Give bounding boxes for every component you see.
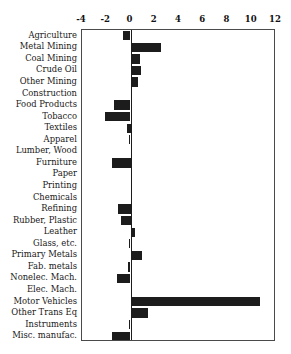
y-axis-label-nonelec-mach: Nonelec. Mach. (10, 273, 77, 282)
bar (112, 332, 131, 341)
bar (112, 158, 130, 167)
y-axis-label-elec-mach: Elec. Mach. (27, 285, 77, 294)
bar (131, 308, 149, 317)
y-axis-label-other-mining: Other Mining (20, 77, 77, 86)
bar (131, 66, 141, 75)
bar (129, 239, 131, 248)
bar (131, 251, 143, 260)
bar (127, 124, 130, 133)
x-tick-label: 2 (151, 14, 157, 25)
bar (118, 204, 130, 213)
y-axis-label-other-trans-eq: Other Trans Eq (11, 308, 77, 317)
x-tick-label: 10 (245, 14, 257, 25)
horizontal-bar-chart: -4-2024681012 AgricultureMetal MiningCoa… (0, 0, 291, 354)
bar (131, 43, 162, 52)
x-tick-label: 4 (175, 14, 181, 25)
bar (129, 320, 131, 329)
y-axis-label-printing: Printing (42, 181, 77, 190)
y-axis-label-agriculture: Agriculture (28, 30, 77, 39)
bar (114, 100, 131, 109)
y-axis-label-textiles: Textiles (44, 123, 77, 132)
bar (131, 77, 138, 86)
y-axis-label-crude-oil: Crude Oil (36, 65, 77, 74)
y-axis-label-construction: Construction (22, 88, 77, 97)
y-axis-label-misc-manufac: Misc. manufac. (12, 331, 77, 340)
x-tick-label: 12 (269, 14, 281, 25)
x-axis-tick-labels: -4-2024681012 (81, 14, 275, 28)
x-tick-label: 8 (224, 14, 230, 25)
y-axis-label-coal-mining: Coal Mining (25, 53, 77, 62)
x-tick-label: 6 (199, 14, 205, 25)
y-axis-category-labels: AgricultureMetal MiningCoal MiningCrude … (0, 29, 79, 341)
bar (121, 216, 130, 225)
bar (128, 262, 130, 271)
y-axis-label-lumber-wood: Lumber, Wood (16, 146, 77, 155)
y-axis-label-primary-metals: Primary Metals (11, 250, 77, 259)
y-axis-label-rubber-plastic: Rubber, Plastic (13, 215, 77, 224)
plot-area (81, 29, 275, 341)
bar (123, 31, 131, 40)
y-axis-label-furniture: Furniture (36, 157, 77, 166)
bar (131, 147, 133, 156)
y-axis-label-refining: Refining (41, 204, 77, 213)
bar (131, 170, 132, 179)
y-axis-label-leather: Leather (44, 227, 77, 236)
y-axis-label-food-products: Food Products (16, 100, 77, 109)
y-axis-label-instruments: Instruments (25, 319, 77, 328)
y-axis-label-apparel: Apparel (44, 134, 77, 143)
bar (129, 135, 130, 144)
bar (131, 54, 140, 63)
bar (117, 274, 130, 283)
y-axis-label-motor-vehicles: Motor Vehicles (13, 296, 77, 305)
y-axis-label-tobacco: Tobacco (42, 111, 77, 120)
y-axis-label-fab-metals: Fab. metals (28, 261, 77, 270)
y-axis-label-chemicals: Chemicals (33, 192, 77, 201)
x-tick-label: -2 (101, 14, 110, 25)
x-tick-label: -4 (76, 14, 85, 25)
bar (131, 193, 132, 202)
bar (105, 112, 130, 121)
y-axis-label-glass-etc: Glass, etc. (33, 238, 77, 247)
y-axis-label-paper: Paper (52, 169, 77, 178)
bar (131, 297, 261, 306)
y-axis-label-metal-mining: Metal Mining (20, 42, 77, 51)
bar (131, 228, 135, 237)
x-tick-label: 0 (127, 14, 133, 25)
